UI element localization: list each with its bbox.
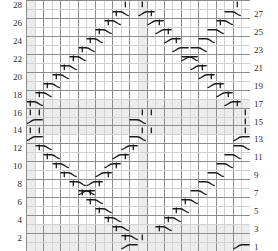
stitch-bar-icon [60, 170, 69, 179]
row-number-label-left: 16 [13, 109, 22, 118]
stitch-bar-icon [86, 188, 95, 197]
row-number-label-left: 22 [13, 55, 22, 64]
grid-line-horizontal [26, 197, 250, 198]
row-number-label-left: 6 [18, 198, 23, 207]
row-number-label-right: 27 [254, 10, 263, 19]
grid-line-horizontal [26, 161, 250, 162]
stitch-bar-icon [95, 206, 104, 215]
grid-line-horizontal [26, 72, 250, 73]
grid-line-horizontal [26, 242, 250, 243]
grid-line-horizontal [26, 45, 250, 46]
stitch-bar-icon [69, 54, 78, 63]
row-number-label-left: 2 [18, 234, 23, 243]
row-number-label-left: 10 [13, 162, 22, 171]
row-number-label-left: 20 [13, 73, 22, 82]
stitch-grid [26, 0, 250, 251]
grid-line-horizontal [26, 206, 250, 207]
grid-line-horizontal [26, 99, 250, 100]
stitch-bar-icon [95, 27, 104, 36]
row-number-label-right: 11 [254, 153, 263, 162]
grid-line-horizontal [26, 125, 250, 126]
stitch-bar-icon [86, 197, 95, 206]
grid-line-horizontal [26, 143, 250, 144]
grid-line-horizontal [26, 152, 250, 153]
row-number-axis-left: 282624222018161412108642 [0, 0, 26, 251]
row-number-label-right: 13 [254, 135, 263, 144]
grid-line-horizontal [26, 117, 250, 118]
grid-line-horizontal [26, 170, 250, 171]
row-number-label-right: 17 [254, 100, 263, 109]
row-number-label-right: 5 [254, 207, 259, 216]
row-number-label-right: 1 [254, 243, 259, 251]
stitch-bar-icon [43, 81, 52, 90]
stitch-bar-icon [112, 161, 121, 170]
grid-line-horizontal [26, 0, 250, 1]
stitch-bar-icon [69, 179, 78, 188]
grid-line-horizontal [26, 233, 250, 234]
stitch-bar-icon [172, 206, 181, 215]
grid-line-horizontal [26, 90, 250, 91]
row-number-label-right: 3 [254, 225, 259, 234]
row-number-label-left: 28 [13, 1, 22, 10]
row-number-label-left: 12 [13, 144, 22, 153]
row-number-label-right: 25 [254, 28, 263, 37]
grid-line-horizontal [26, 18, 250, 19]
row-number-label-right: 23 [254, 46, 263, 55]
stitch-bar-icon [112, 9, 121, 18]
stitch-bar-icon [43, 152, 52, 161]
row-number-label-right: 9 [254, 171, 259, 180]
grid-line-horizontal [26, 81, 250, 82]
stitch-bar-icon [172, 36, 181, 45]
row-number-label-left: 24 [13, 37, 22, 46]
grid-line-horizontal [26, 224, 250, 225]
grid-line-horizontal [26, 188, 250, 189]
row-number-label-right: 19 [254, 82, 263, 91]
stitch-bar-icon [207, 72, 216, 81]
grid-line-horizontal [26, 36, 250, 37]
grid-line-horizontal [26, 63, 250, 64]
row-number-label-left: 14 [13, 126, 22, 135]
grid-line-horizontal [26, 179, 250, 180]
row-number-label-left: 26 [13, 19, 22, 28]
row-number-label-right: 21 [254, 64, 263, 73]
row-number-label-left: 18 [13, 91, 22, 100]
grid-line-horizontal [26, 54, 250, 55]
knitting-chart: 282624222018161412108642 272523211917151… [0, 0, 278, 251]
stitch-bar-icon [86, 36, 95, 45]
grid-line-horizontal [26, 215, 250, 216]
row-number-label-right: 15 [254, 118, 263, 127]
row-number-axis-right: 27252321191715131197531 [250, 0, 278, 251]
stitch-bar-icon [155, 18, 164, 27]
row-number-label-left: 4 [18, 216, 23, 225]
row-number-label-left: 8 [18, 180, 23, 189]
grid-line-horizontal [26, 134, 250, 135]
grid-line-horizontal [26, 27, 250, 28]
grid-line-horizontal [26, 9, 250, 10]
stitch-bar-icon [95, 179, 104, 188]
stitch-bar-icon [181, 197, 190, 206]
stitch-bar-icon [60, 63, 69, 72]
grid-line-horizontal [26, 108, 250, 109]
row-number-label-right: 7 [254, 189, 259, 198]
stitch-bar-icon [198, 63, 207, 72]
